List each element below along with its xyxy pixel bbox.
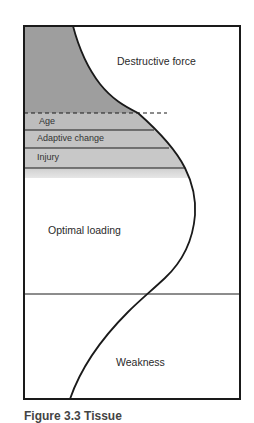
- fade-band: [24, 168, 240, 178]
- weakness-label: Weakness: [116, 357, 165, 368]
- adaptive-change-band-label: Adaptive change: [37, 134, 104, 143]
- injury-band-label: Injury: [37, 153, 59, 162]
- figure-caption: Figure 3.3 Tissue: [24, 410, 122, 422]
- age-band: [24, 113, 240, 130]
- dark-shaded-region: [24, 26, 240, 113]
- optimal-loading-label: Optimal loading: [48, 225, 121, 236]
- age-band-label: Age: [39, 117, 55, 126]
- destructive-force-label: Destructive force: [117, 56, 196, 67]
